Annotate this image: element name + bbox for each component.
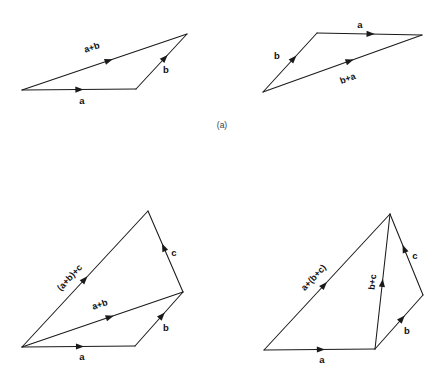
vec-c-bottom-left-line [148, 211, 183, 292]
vector-c: c [148, 211, 183, 292]
vector-b-c: b+c [367, 214, 390, 349]
triangle-b-plus-a: bab+a [263, 19, 422, 92]
vec-sum-ab-top-left-arrowhead [104, 59, 113, 65]
vector--a-b--c: (a+b)+c [22, 211, 148, 347]
vector-a: a [22, 86, 136, 105]
caption-a: (a) [217, 120, 228, 130]
vec-a-top-right-arrowhead [366, 31, 374, 37]
vec-sum-bc-bottom-right-label: b+c [367, 274, 379, 291]
vector-a: a [22, 343, 135, 361]
vec-b-top-left-label: b [163, 64, 169, 75]
vec-sum-ba-top-right-arrowhead [345, 59, 354, 65]
vec-c-bottom-left-label: c [171, 247, 176, 258]
vec-c-bottom-right-label: c [412, 250, 417, 261]
diagram-canvas: aba+bbab+aabca+b(a+b)+cabcb+ca+(b+c) (a) [0, 0, 445, 372]
triangle-a-plus-b: aba+b [22, 34, 187, 106]
vec-sum-abc-bottom-left-label: (a+b)+c [55, 262, 84, 292]
vec-a-bottom-right-arrowhead [317, 346, 325, 352]
vector-b: b [263, 33, 317, 92]
vec-b-top-right-label: b [274, 50, 280, 61]
vec-a-top-left-label: a [79, 95, 85, 106]
vec-sum-ab-top-left-label: a+b [83, 40, 102, 55]
vec-b-top-right-line [263, 33, 317, 92]
vec-c-bottom-right-arrowhead [403, 245, 409, 254]
panels-layer: aba+bbab+aabca+b(a+b)+cabcb+ca+(b+c) [22, 19, 423, 365]
vec-c-bottom-right-line [390, 214, 423, 295]
vector-a: a [264, 346, 375, 364]
vector-a: a [317, 19, 422, 38]
vector-addition-figure: aba+bbab+aabca+b(a+b)+cabcb+ca+(b+c) (a) [0, 0, 445, 372]
vec-b-bottom-right-line [375, 295, 423, 349]
vector-a-b: a+b [22, 34, 187, 90]
quad-a-plus-b-plus-c: abca+b(a+b)+c [22, 211, 183, 362]
vec-c-bottom-left-arrowhead [162, 243, 168, 252]
vec-a-top-right-label: a [357, 19, 363, 30]
vec-a-bottom-right-label: a [319, 354, 325, 365]
vec-sum-bc-bottom-right-arrowhead [379, 279, 385, 287]
vec-b-bottom-right-label: b [404, 325, 410, 336]
vec-sum-ba-top-right-label: b+a [339, 71, 358, 86]
vec-sum-ab-top-left-line [22, 34, 187, 90]
vec-a-bottom-left-label: a [79, 351, 85, 362]
quad-a-plus-bc: abcb+ca+(b+c) [264, 214, 423, 365]
vec-a-bottom-left-arrowhead [76, 343, 84, 349]
vector-c: c [390, 214, 423, 295]
vec-sum-ab-bottom-left-arrowhead [105, 315, 114, 321]
vec-b-bottom-left-label: b [163, 322, 169, 333]
vec-sum-ab-bottom-left-label: a+b [91, 297, 110, 312]
vec-a-top-left-arrowhead [75, 86, 83, 92]
vector-b-a: b+a [263, 35, 422, 92]
captions-layer: (a) [217, 120, 228, 130]
vector-b: b [375, 295, 423, 349]
